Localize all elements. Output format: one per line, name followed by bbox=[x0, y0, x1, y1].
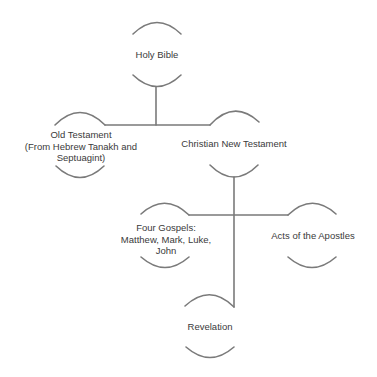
gospels-bottom-arc bbox=[141, 257, 189, 268]
node-christian-new-testament: Christian New Testament bbox=[181, 138, 286, 150]
bible-structure-diagram: Holy Bible Old Testament (From Hebrew Ta… bbox=[0, 0, 377, 377]
gospels-line-1: Four Gospels: bbox=[121, 222, 211, 234]
old-testament-line-1: Old Testament bbox=[25, 129, 137, 141]
new-testament-bottom-arc bbox=[210, 165, 258, 177]
root-top-arc bbox=[133, 23, 181, 35]
gospels-line-3: John bbox=[121, 245, 211, 257]
node-acts-of-the-apostles: Acts of the Apostles bbox=[271, 230, 354, 242]
acts-top-arc bbox=[288, 203, 336, 215]
old-testament-top-arc bbox=[55, 113, 105, 126]
gospels-top-arc bbox=[141, 203, 189, 215]
old-testament-line-3: Septuagint) bbox=[25, 152, 137, 164]
new-testament-top-arc bbox=[210, 111, 259, 125]
old-testament-bottom-arc bbox=[56, 166, 104, 178]
node-revelation: Revelation bbox=[188, 321, 233, 333]
acts-bottom-arc bbox=[288, 257, 336, 268]
node-old-testament: Old Testament (From Hebrew Tanakh and Se… bbox=[25, 129, 137, 164]
old-testament-line-2: (From Hebrew Tanakh and bbox=[25, 141, 137, 153]
revelation-top-arc bbox=[185, 295, 234, 307]
revelation-bottom-arc bbox=[186, 347, 234, 358]
gospels-line-2: Matthew, Mark, Luke, bbox=[121, 234, 211, 246]
node-four-gospels: Four Gospels: Matthew, Mark, Luke, John bbox=[121, 222, 211, 257]
node-holy-bible: Holy Bible bbox=[136, 49, 179, 61]
root-bottom-arc bbox=[133, 75, 181, 87]
